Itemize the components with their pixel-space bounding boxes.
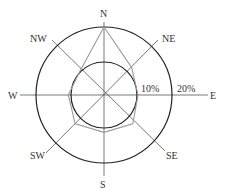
label-ne: NE (162, 33, 175, 44)
label-nw: NW (30, 33, 47, 44)
ring-label-20: 20% (177, 83, 195, 94)
label-e: E (210, 90, 216, 101)
ring-label-10: 10% (141, 83, 159, 94)
label-w: W (8, 90, 18, 101)
label-se: SE (166, 150, 178, 161)
label-sw: SW (30, 150, 46, 161)
direction-axes (20, 22, 208, 176)
axis-ne-sw (46, 40, 158, 153)
wind-rose-chart: N NE E SE S SW W NW 10% 20% (0, 0, 226, 195)
label-n: N (100, 8, 107, 19)
label-s: S (100, 179, 106, 190)
